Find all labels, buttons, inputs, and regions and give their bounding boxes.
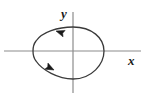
figure-canvas: y x bbox=[0, 0, 148, 104]
y-axis-label: y bbox=[61, 7, 67, 20]
x-axis-label: x bbox=[128, 54, 135, 67]
figure-svg bbox=[0, 0, 148, 104]
closed-curve-path bbox=[33, 27, 104, 79]
lower-direction-arrow bbox=[45, 63, 56, 73]
